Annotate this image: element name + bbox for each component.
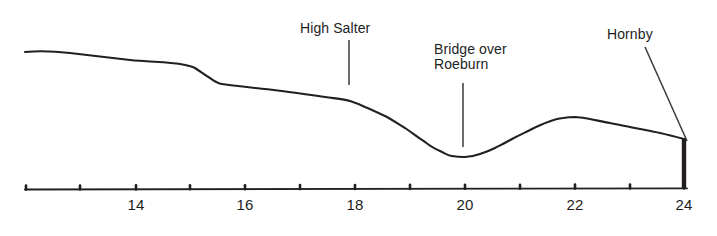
hornby-leader-line — [645, 47, 687, 141]
elevation-profile-curve — [25, 51, 684, 157]
annotation-label-high-salter: High Salter — [300, 21, 370, 36]
annotation-label-hornby: Hornby — [607, 27, 653, 42]
annotation-label-bridge-over-roeburn: Bridge over Roeburn — [434, 42, 507, 72]
x-tick-label-16: 16 — [225, 197, 265, 213]
x-tick-label-24: 24 — [664, 197, 704, 213]
x-tick-label-20: 20 — [445, 197, 485, 213]
elevation-profile-figure: High Salter Bridge over Roeburn Hornby 1… — [0, 0, 717, 236]
x-tick-label-18: 18 — [335, 197, 375, 213]
x-tick-label-14: 14 — [116, 197, 156, 213]
x-tick-label-22: 22 — [555, 197, 595, 213]
